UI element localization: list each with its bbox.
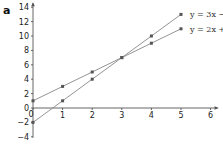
x-tick-label: 4 (149, 111, 154, 120)
y-tick-label: 10 (19, 32, 29, 41)
x-tick-label: 6 (208, 111, 213, 120)
y-tick-label: 12 (19, 18, 29, 27)
data-point-marker (61, 99, 64, 102)
legend: y = 3x − 2y = 2x + (189, 10, 223, 33)
series-line-2 (33, 29, 181, 101)
axis-ticks: 1234560−4−202468101214 (17, 3, 213, 142)
data-point-marker (150, 35, 153, 38)
y-axis-arrow-icon (31, 2, 35, 6)
data-point-marker (91, 71, 94, 74)
legend-label-1: y = 3x − 2 (189, 10, 223, 19)
y-tick-label: −2 (17, 118, 29, 127)
data-point-marker (32, 99, 35, 102)
data-point-marker (180, 27, 183, 30)
legend-label-2: y = 2x + (189, 25, 223, 34)
x-tick-label: 2 (90, 111, 95, 120)
data-point-marker (120, 56, 123, 59)
series-lines (32, 13, 183, 124)
y-tick-label: 0 (24, 104, 29, 113)
y-tick-label: 14 (19, 3, 29, 12)
y-tick-label: −4 (17, 133, 29, 142)
data-point-marker (180, 13, 183, 16)
line-chart: a 1234560−4−202468101214 y = 3x − 2y = 2… (0, 0, 223, 146)
x-tick-label: 1 (60, 111, 65, 120)
data-point-marker (61, 85, 64, 88)
data-point-marker (91, 78, 94, 81)
x-tick-label: 3 (119, 111, 124, 120)
series-line-1 (33, 14, 181, 122)
y-tick-label: 6 (24, 61, 29, 70)
x-tick-label: 5 (178, 111, 183, 120)
data-point-marker (150, 42, 153, 45)
y-tick-label: 8 (24, 46, 29, 55)
y-tick-label: 4 (24, 75, 29, 84)
data-point-marker (32, 121, 35, 124)
x-axis-arrow-icon (215, 106, 219, 110)
x-tick-label: 0 (28, 110, 33, 119)
panel-label: a (3, 4, 10, 17)
y-tick-label: 2 (24, 90, 29, 99)
